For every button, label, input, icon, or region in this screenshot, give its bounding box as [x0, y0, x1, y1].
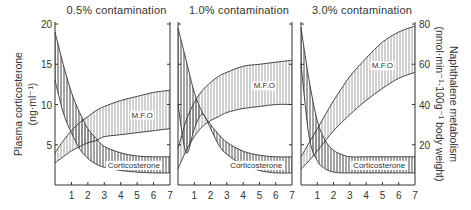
x-tick-label: 1 — [192, 190, 198, 201]
right-y-tick-label: 20 — [419, 140, 431, 151]
panel-3: 3.0% contaminationCorticosteroneM.F.O123… — [301, 4, 431, 201]
x-tick-label: 6 — [396, 190, 402, 201]
x-tick-label: 2 — [331, 190, 337, 201]
x-tick-label: 7 — [289, 190, 295, 201]
x-tick-label: 4 — [240, 190, 246, 201]
right-axis-label: Naphthalene metabolism (nmol·min⁻¹·100g⁻… — [434, 27, 460, 182]
panel-title: 0.5% contamination — [66, 4, 166, 16]
right-axis-label-line2: (nmol·min⁻¹·100g⁻¹ body weight) — [434, 27, 446, 182]
mfo-label: M.F.O — [372, 61, 393, 70]
corticosterone-label: Corticosterone — [108, 161, 161, 170]
x-tick-label: 7 — [167, 190, 173, 201]
panels: 0.5% contaminationCorticosteroneM.F.O123… — [41, 4, 431, 201]
mfo-label: M.F.O — [131, 111, 152, 120]
left-axis-label-line2: (ng·ml⁻¹) — [26, 83, 38, 126]
panel-title: 3.0% contamination — [312, 4, 412, 16]
x-tick-label: 2 — [85, 190, 91, 201]
figure: Plasma corticosterone (ng·ml⁻¹) Naphthal… — [0, 0, 471, 210]
x-tick-label: 6 — [273, 190, 279, 201]
panel-title: 1.0% contamination — [189, 4, 289, 16]
corticosterone-label: Corticosterone — [353, 161, 406, 170]
mfo-band — [301, 26, 415, 169]
x-tick-label: 6 — [151, 190, 157, 201]
left-y-tick-label: 5 — [46, 140, 52, 151]
right-axis-label-line1: Naphthalene metabolism — [448, 46, 460, 162]
right-y-tick-label: 80 — [419, 19, 431, 30]
x-tick-label: 3 — [102, 190, 108, 201]
x-tick-label: 1 — [69, 190, 75, 201]
left-y-tick-label: 15 — [41, 59, 53, 70]
x-tick-label: 3 — [347, 190, 353, 201]
right-y-tick-label: 40 — [419, 100, 431, 111]
left-y-tick-label: 20 — [41, 19, 53, 30]
left-axis-label: Plasma corticosterone (ng·ml⁻¹) — [12, 52, 38, 156]
x-tick-label: 5 — [257, 190, 263, 201]
x-tick-label: 5 — [380, 190, 386, 201]
x-tick-label: 5 — [134, 190, 140, 201]
panel-2: 1.0% contaminationCorticosteroneM.F.O123… — [178, 4, 295, 201]
x-tick-label: 7 — [412, 190, 418, 201]
x-tick-label: 1 — [315, 190, 321, 201]
panel-1: 0.5% contaminationCorticosteroneM.F.O123… — [41, 4, 173, 201]
right-y-tick-label: 60 — [419, 59, 431, 70]
x-tick-label: 4 — [363, 190, 369, 201]
x-tick-label: 3 — [224, 190, 230, 201]
corticosterone-label: Corticosterone — [230, 161, 283, 170]
x-tick-label: 4 — [118, 190, 124, 201]
mfo-label: M.F.O — [254, 81, 275, 90]
x-tick-label: 2 — [208, 190, 214, 201]
left-y-tick-label: 10 — [41, 100, 53, 111]
left-axis-label-line1: Plasma corticosterone — [12, 52, 24, 156]
